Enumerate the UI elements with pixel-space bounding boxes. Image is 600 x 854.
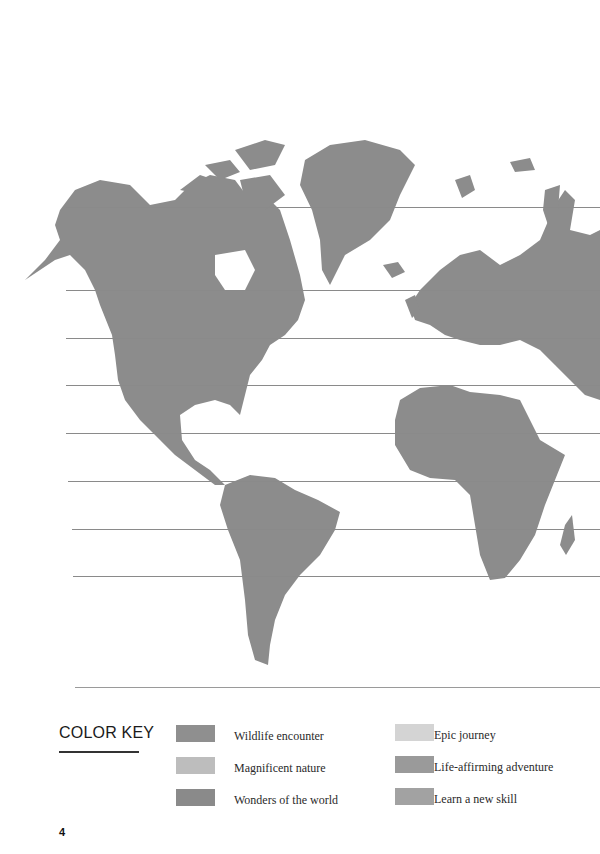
legend-label-life-affirming-adventure: Life-affirming adventure [434,760,553,775]
south-america [220,475,340,665]
north-america [25,175,305,485]
swatch-epic-journey [395,724,434,741]
color-key-underline [59,751,139,753]
madagascar [560,515,575,555]
latitude-line [66,433,600,434]
swatch-magnificent-nature [176,757,215,774]
legend-label-learn-a-new-skill: Learn a new skill [434,792,517,807]
swatch-life-affirming-adventure [395,756,434,773]
page-number: 4 [59,826,65,838]
swatch-wildlife-encounter [176,725,215,742]
latitude-line [66,207,600,208]
legend-label-epic-journey: Epic journey [434,728,496,743]
latitude-line [72,529,600,530]
latitude-line [66,290,600,291]
africa [395,385,565,580]
legend-label-magnificent-nature: Magnificent nature [234,761,326,776]
latitude-line [66,338,600,339]
iceland [383,262,405,278]
world-map [0,0,600,700]
swatch-learn-a-new-skill [395,788,434,805]
swatch-wonders-of-the-world [176,789,215,806]
color-key-title: COLOR KEY [59,724,154,742]
world-map-landmass [0,0,600,700]
latitude-line [75,687,600,688]
latitude-line [68,481,600,482]
legend-label-wildlife-encounter: Wildlife encounter [234,729,324,744]
eurasia [410,190,600,400]
latitude-line [66,385,600,386]
legend-label-wonders-of-the-world: Wonders of the world [234,793,338,808]
latitude-line [73,576,600,577]
